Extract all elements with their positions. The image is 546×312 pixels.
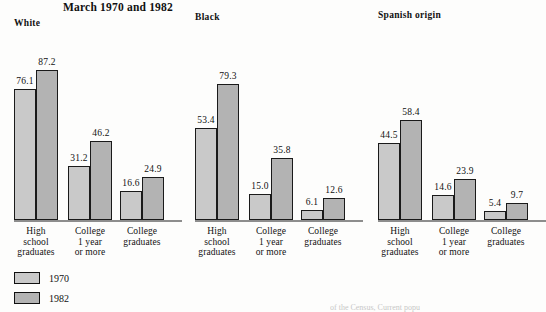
bar-1970 [432, 195, 454, 220]
bar-value-label: 24.9 [137, 164, 169, 174]
axis-baseline [195, 220, 363, 222]
legend-label-1970: 1970 [49, 273, 69, 284]
bar-1970 [195, 128, 217, 220]
bar-1982 [36, 70, 58, 220]
bar-1982 [400, 120, 422, 220]
legend-label-1982: 1982 [49, 293, 69, 304]
bar-value-label: 23.9 [449, 166, 481, 176]
legend-swatch-1982 [14, 292, 40, 304]
bar-1982 [271, 158, 293, 220]
bar-1982 [142, 177, 164, 220]
bar-1970 [14, 89, 36, 220]
bar-1982 [454, 179, 476, 220]
bar-1982 [90, 141, 112, 220]
bar-1982 [506, 203, 528, 220]
category-label: College graduates [292, 226, 354, 247]
category-label: College graduates [111, 226, 173, 247]
axis-baseline [378, 220, 546, 222]
chart-group-black: Black53.479.3High school graduates15.035… [195, 0, 345, 310]
category-label: High school graduates [369, 226, 431, 258]
legend-item-1982: 1982 [14, 292, 69, 304]
bar-value-label: 58.4 [395, 107, 427, 117]
chart-group-spanish-origin: Spanish origin44.558.4High school gradua… [378, 0, 528, 310]
legend-item-1970: 1970 [14, 272, 69, 284]
bar-value-label: 9.7 [501, 190, 533, 200]
legend-swatch-1970 [14, 272, 40, 284]
chart-group-white: White76.187.2High school graduates31.246… [14, 0, 164, 310]
bar-1970 [68, 166, 90, 220]
bar-1970 [120, 191, 142, 220]
group-title: White [14, 18, 40, 28]
axis-baseline [14, 220, 182, 222]
bar-1970 [484, 211, 506, 220]
category-label: High school graduates [186, 226, 248, 258]
source-note: of the Census, Current popu [330, 303, 420, 312]
bar-1982 [323, 198, 345, 220]
category-label: College graduates [475, 226, 537, 247]
bar-value-label: 79.3 [212, 71, 244, 81]
bar-value-label: 35.8 [266, 145, 298, 155]
bar-value-label: 46.2 [85, 128, 117, 138]
group-title: Spanish origin [378, 10, 441, 20]
category-label: High school graduates [5, 226, 67, 258]
group-title: Black [195, 12, 220, 22]
bar-value-label: 87.2 [31, 57, 63, 67]
bar-value-label: 12.6 [318, 185, 350, 195]
bar-1982 [217, 84, 239, 220]
bar-1970 [249, 194, 271, 220]
bar-1970 [378, 143, 400, 220]
bar-1970 [301, 210, 323, 220]
